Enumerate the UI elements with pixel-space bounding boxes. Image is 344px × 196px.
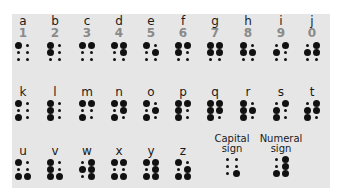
braille-dot-pattern <box>47 100 63 121</box>
raised-dot-icon <box>120 159 127 166</box>
raised-dot-icon <box>111 42 118 49</box>
braille-dot-pattern <box>175 100 191 121</box>
letter-label: w <box>72 145 102 157</box>
raised-dot-icon <box>175 100 182 107</box>
flat-dot-icon <box>122 168 125 171</box>
letter-label: q <box>200 86 230 98</box>
raised-dot-icon <box>47 42 54 49</box>
braille-cell-p: p <box>168 86 198 121</box>
raised-dot-icon <box>56 173 63 180</box>
raised-dot-icon <box>143 100 150 107</box>
flat-dot-icon <box>186 116 189 119</box>
flat-dot-icon <box>81 161 84 164</box>
flat-dot-icon <box>251 102 254 105</box>
raised-dot-icon <box>47 159 54 166</box>
braille-dot-pattern <box>79 42 95 63</box>
braille-dot-pattern <box>143 42 159 63</box>
raised-dot-icon <box>313 100 320 107</box>
letter-label: u <box>8 145 38 157</box>
braille-dot-pattern <box>79 159 95 180</box>
raised-dot-icon <box>15 100 22 107</box>
braille-dot-pattern <box>15 100 31 121</box>
letter-label: v <box>40 145 70 157</box>
numeral-label: 5 <box>136 27 166 40</box>
raised-dot-icon <box>111 173 118 180</box>
braille-dot-pattern <box>240 42 256 63</box>
braille-dot-pattern <box>304 42 320 63</box>
flat-dot-icon <box>90 51 93 54</box>
raised-dot-icon <box>240 107 247 114</box>
braille-cell-b: b2 <box>40 15 70 63</box>
flat-dot-icon <box>113 58 116 61</box>
raised-dot-icon <box>120 42 127 49</box>
flat-dot-icon <box>306 102 309 105</box>
braille-cell-y: y <box>136 145 166 180</box>
raised-dot-icon <box>120 100 127 107</box>
braille-dot-pattern <box>175 42 191 63</box>
raised-dot-icon <box>273 114 280 121</box>
flat-dot-icon <box>26 51 29 54</box>
braille-cell-i: i9 <box>266 15 296 63</box>
flat-dot-icon <box>251 58 254 61</box>
raised-dot-icon <box>175 159 182 166</box>
braille-dot-pattern <box>273 100 289 121</box>
flat-dot-icon <box>26 116 29 119</box>
raised-dot-icon <box>15 159 22 166</box>
raised-dot-icon <box>240 49 247 56</box>
raised-dot-icon <box>282 170 289 177</box>
flat-dot-icon <box>218 58 221 61</box>
flat-dot-icon <box>186 109 189 112</box>
raised-dot-icon <box>88 42 95 49</box>
raised-dot-icon <box>175 107 182 114</box>
flat-dot-icon <box>26 168 29 171</box>
raised-dot-icon <box>249 107 256 114</box>
braille-cell-n: n <box>104 86 134 121</box>
raised-dot-icon <box>152 173 159 180</box>
braille-cell-u: u <box>8 145 38 180</box>
braille-cell-c: c3 <box>72 15 102 63</box>
braille-cell-g: g7 <box>200 15 230 63</box>
flat-dot-icon <box>90 58 93 61</box>
braille-cell-j: j0 <box>297 15 327 63</box>
raised-dot-icon <box>120 173 127 180</box>
raised-dot-icon <box>240 100 247 107</box>
flat-dot-icon <box>226 172 229 175</box>
braille-dot-pattern <box>207 42 223 63</box>
raised-dot-icon <box>216 100 223 107</box>
raised-dot-icon <box>47 107 54 114</box>
numeral-label: 0 <box>297 27 327 40</box>
raised-dot-icon <box>88 173 95 180</box>
raised-dot-icon <box>175 114 182 121</box>
flat-dot-icon <box>284 51 287 54</box>
flat-dot-icon <box>58 102 61 105</box>
flat-dot-icon <box>90 116 93 119</box>
flat-dot-icon <box>226 165 229 168</box>
braille-dot-pattern <box>47 42 63 63</box>
raised-dot-icon <box>216 42 223 49</box>
flat-dot-icon <box>226 158 229 161</box>
flat-dot-icon <box>81 51 84 54</box>
raised-dot-icon <box>249 49 256 56</box>
braille-cell-e: e5 <box>136 15 166 63</box>
raised-dot-icon <box>143 159 150 166</box>
raised-dot-icon <box>88 166 95 173</box>
raised-dot-icon <box>282 42 289 49</box>
flat-dot-icon <box>113 168 116 171</box>
letter-label: r <box>233 86 263 98</box>
flat-dot-icon <box>58 168 61 171</box>
raised-dot-icon <box>15 42 22 49</box>
braille-cell-numeral-sign: Numeralsign <box>259 134 303 177</box>
raised-dot-icon <box>313 107 320 114</box>
raised-dot-icon <box>152 107 159 114</box>
raised-dot-icon <box>47 166 54 173</box>
numeral-label: 6 <box>168 27 198 40</box>
braille-cell-s: s <box>266 86 296 121</box>
raised-dot-icon <box>152 159 159 166</box>
flat-dot-icon <box>26 109 29 112</box>
braille-dot-pattern <box>15 159 31 180</box>
flat-dot-icon <box>154 58 157 61</box>
flat-dot-icon <box>315 58 318 61</box>
raised-dot-icon <box>152 166 159 173</box>
letter-label: t <box>297 86 327 98</box>
raised-dot-icon <box>143 114 150 121</box>
